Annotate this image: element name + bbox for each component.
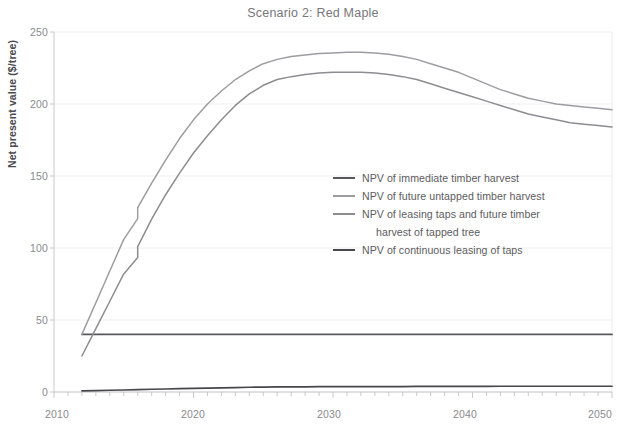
legend-item-label: NPV of leasing taps and future timber: [362, 206, 540, 223]
legend-item-label: NPV of continuous leasing of taps: [362, 242, 523, 259]
legend-swatch-icon: [333, 249, 355, 251]
series-line-3: [82, 386, 612, 391]
legend-swatch-icon: [333, 177, 355, 179]
legend-item-continuous-leasing-of-taps[interactable]: NPV of continuous leasing of taps: [333, 242, 573, 260]
chart-legend: NPV of immediate timber harvest NPV of f…: [333, 170, 573, 260]
legend-item-label: NPV of future untapped timber harvest: [362, 188, 545, 205]
legend-item-label: NPV of immediate timber harvest: [362, 170, 519, 187]
legend-item-leasing-taps-continuation: harvest of tapped tree: [333, 224, 573, 242]
legend-swatch-icon: [333, 213, 355, 215]
legend-item-future-untapped-timber-harvest[interactable]: NPV of future untapped timber harvest: [333, 188, 573, 206]
legend-item-leasing-taps-and-future-timber-harvest[interactable]: NPV of leasing taps and future timber: [333, 206, 573, 224]
chart-container: Scenario 2: Red Maple Net present value …: [0, 0, 626, 431]
legend-swatch-icon: [333, 195, 355, 197]
legend-swatch-spacer-icon: [333, 231, 355, 233]
legend-item-label-continuation: harvest of tapped tree: [362, 224, 480, 241]
legend-item-immediate-timber-harvest[interactable]: NPV of immediate timber harvest: [333, 170, 573, 188]
